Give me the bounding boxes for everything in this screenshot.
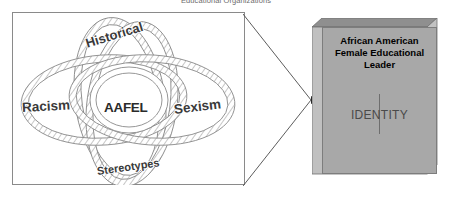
diagram-canvas: Educational Organizations [0, 0, 452, 215]
identity-box-body-label: IDENTITY [322, 108, 437, 122]
identity-box: African American Female Educational Lead… [312, 18, 438, 175]
identity-box-title-line-3: Leader [322, 59, 437, 71]
venn-label-racism: Racism [22, 97, 71, 114]
venn-label-aafel-center: AAFEL [104, 100, 148, 115]
connector-arrow [243, 10, 323, 190]
diagram-caption: Educational Organizations [0, 0, 452, 5]
identity-box-title-line-1: African American [322, 35, 437, 47]
identity-box-title-line-2: Female Educational [322, 47, 437, 59]
identity-box-title: African American Female Educational Lead… [322, 35, 437, 71]
